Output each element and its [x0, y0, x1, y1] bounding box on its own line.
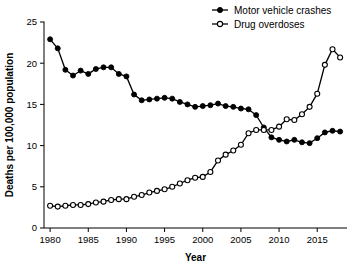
data-point — [269, 135, 274, 140]
data-point — [269, 127, 274, 132]
data-point — [177, 181, 182, 186]
data-point — [55, 46, 60, 51]
series-line-2 — [50, 49, 340, 206]
data-point — [338, 129, 343, 134]
x-tick-label: 2010 — [269, 234, 290, 245]
x-tick-label: 2005 — [230, 234, 251, 245]
data-point — [147, 190, 152, 195]
data-point — [78, 202, 83, 207]
data-point — [246, 107, 251, 112]
data-point — [139, 98, 144, 103]
data-point — [162, 187, 167, 192]
series-line-1 — [50, 39, 340, 143]
data-point — [185, 102, 190, 107]
x-axis-title: Year — [185, 252, 206, 263]
data-point — [170, 96, 175, 101]
data-point — [101, 199, 106, 204]
data-point — [231, 104, 236, 109]
data-point — [162, 95, 167, 100]
data-point — [63, 67, 68, 72]
legend-label-1: Motor vehicle crashes — [234, 5, 331, 16]
data-point — [299, 140, 304, 145]
x-tick-label: 1990 — [116, 234, 137, 245]
data-point — [284, 139, 289, 144]
data-point — [246, 131, 251, 136]
x-tick-label: 2015 — [307, 234, 328, 245]
data-point — [86, 71, 91, 76]
data-point — [277, 124, 282, 129]
data-point — [116, 197, 121, 202]
x-tick-label: 1995 — [154, 234, 175, 245]
data-point — [139, 193, 144, 198]
y-tick-label: 5 — [32, 181, 37, 192]
data-point — [315, 91, 320, 96]
data-point — [216, 158, 221, 163]
data-point — [223, 104, 228, 109]
y-tick-label: 10 — [26, 140, 37, 151]
data-point — [322, 130, 327, 135]
data-point — [284, 117, 289, 122]
data-point — [71, 202, 76, 207]
y-tick-label: 20 — [26, 58, 37, 69]
data-point — [261, 127, 266, 132]
data-point — [208, 169, 213, 174]
x-axis-ticks: 19801985199019952000200520102015 — [40, 228, 328, 245]
data-point — [170, 184, 175, 189]
y-tick-label: 15 — [26, 99, 37, 110]
axes-group — [44, 22, 347, 229]
data-point — [193, 175, 198, 180]
data-point — [200, 174, 205, 179]
data-point — [116, 71, 121, 76]
data-point — [86, 202, 91, 207]
data-point — [238, 106, 243, 111]
data-point — [200, 104, 205, 109]
data-point — [109, 197, 114, 202]
axis-lines — [44, 22, 347, 229]
data-point — [132, 92, 137, 97]
data-point — [254, 113, 259, 118]
data-point — [292, 118, 297, 123]
y-axis-ticks: 0510152025 — [26, 16, 44, 233]
x-tick-label: 1980 — [40, 234, 61, 245]
data-point — [193, 104, 198, 109]
data-point — [154, 188, 159, 193]
data-point — [254, 127, 259, 132]
data-point — [147, 97, 152, 102]
data-point — [338, 55, 343, 60]
y-tick-label: 0 — [32, 222, 37, 233]
data-point — [101, 65, 106, 70]
data-point — [315, 136, 320, 141]
data-point — [132, 194, 137, 199]
data-point — [185, 178, 190, 183]
legend-marker-filled-circle — [217, 7, 222, 12]
data-point — [322, 62, 327, 67]
data-point — [299, 112, 304, 117]
data-point — [154, 96, 159, 101]
data-point — [124, 197, 129, 202]
y-tick-label: 25 — [26, 16, 37, 27]
y-axis-title: Deaths per 100,000 population — [4, 53, 15, 198]
data-point — [330, 47, 335, 52]
x-tick-label: 2000 — [192, 234, 213, 245]
data-point — [71, 73, 76, 78]
legend: Motor vehicle crashesDrug overdoses — [212, 5, 331, 30]
data-point — [223, 152, 228, 157]
data-point — [238, 142, 243, 147]
legend-marker-open-circle — [217, 21, 222, 26]
data-point — [48, 37, 53, 42]
data-point — [216, 101, 221, 106]
legend-label-2: Drug overdoses — [234, 19, 305, 30]
data-point — [307, 141, 312, 146]
data-point — [307, 104, 312, 109]
data-point — [231, 148, 236, 153]
data-point — [48, 203, 53, 208]
series-1 — [48, 37, 343, 146]
x-tick-label: 1985 — [78, 234, 99, 245]
data-point — [124, 74, 129, 79]
data-point — [208, 103, 213, 108]
data-point — [78, 68, 83, 73]
data-point — [277, 137, 282, 142]
data-point — [55, 204, 60, 209]
data-point — [330, 128, 335, 133]
chart-figure: 0510152025198019851990199520002005201020… — [0, 0, 354, 268]
